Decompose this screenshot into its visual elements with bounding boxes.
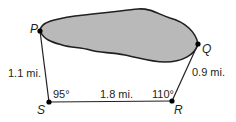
label-r: R xyxy=(174,103,183,117)
label-q: Q xyxy=(202,42,211,56)
length-ps: 1.1 mi. xyxy=(8,67,41,79)
segment-ps xyxy=(40,31,49,102)
point-s xyxy=(46,99,51,104)
segment-sr xyxy=(49,101,172,102)
lake-region xyxy=(40,9,198,62)
point-p xyxy=(37,28,42,33)
geometry-diagram: P Q R S 1.1 mi. 1.8 mi. 0.9 mi. 95° 110° xyxy=(0,0,236,122)
length-rq: 0.9 mi. xyxy=(192,66,225,78)
angle-s: 95° xyxy=(53,88,70,100)
label-p: P xyxy=(30,22,38,36)
label-s: S xyxy=(37,103,45,117)
length-sr: 1.8 mi. xyxy=(100,88,133,100)
point-q xyxy=(195,41,200,46)
angle-r: 110° xyxy=(152,88,174,100)
